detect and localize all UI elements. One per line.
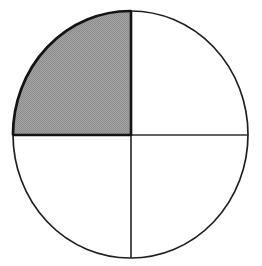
pie-chart-svg [0,0,262,266]
fraction-circle-diagram: 1/4 25 Circle divided into four equal qu… [0,0,262,266]
